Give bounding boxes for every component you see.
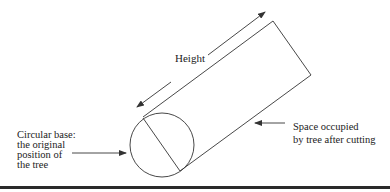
height-label: Height [175,53,205,63]
space-occupied-label: Space occupied by tree after cutting [293,120,376,146]
base-label-line-4: the tree [17,160,76,170]
base-diameter-line [143,118,180,171]
height-arrow-lower [137,82,171,107]
space-label-line-2: by tree after cutting [293,133,376,146]
diagram-canvas: Height Circular base: the original posit… [0,0,390,192]
circular-base-label: Circular base: the original position of … [17,130,76,170]
space-label-line-1: Space occupied [293,120,376,133]
bottom-divider [0,186,390,189]
tree-upper-edge [143,21,273,117]
tree-top-end [273,21,311,75]
tree-lower-edge [180,75,311,171]
